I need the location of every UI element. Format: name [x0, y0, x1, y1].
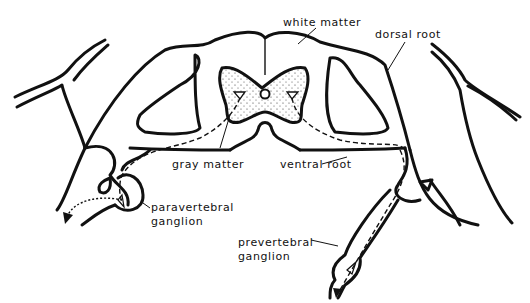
label-paravertebral-2: ganglion	[151, 215, 203, 228]
leader-dorsal-root	[388, 42, 405, 70]
label-white-matter: white matter	[283, 16, 361, 29]
arrow-left	[63, 212, 73, 224]
leader-paravertebral	[143, 203, 150, 208]
right-white-lobe	[327, 58, 388, 134]
label-gray-matter: gray matter	[172, 158, 244, 171]
label-prevertebral-1: prevertebral	[238, 236, 313, 249]
left-white-lobe	[138, 55, 200, 134]
ventral-fissure	[230, 123, 300, 151]
spinal-cord-diagram: white matter dorsal root gray matter ven…	[0, 0, 530, 303]
leader-white-matter	[298, 28, 316, 44]
label-ventral-root: ventral root	[280, 158, 352, 171]
prevertebral-neuron	[347, 262, 356, 274]
leader-prevertebral	[311, 240, 338, 246]
cord-outline	[57, 32, 478, 225]
right-branches	[432, 44, 520, 223]
label-dorsal-root: dorsal root	[375, 28, 441, 41]
central-canal	[261, 90, 270, 99]
nerve-trunk-right	[330, 190, 390, 298]
label-prevertebral-2: ganglion	[238, 250, 290, 263]
label-paravertebral-1: paravertebral	[151, 201, 234, 214]
